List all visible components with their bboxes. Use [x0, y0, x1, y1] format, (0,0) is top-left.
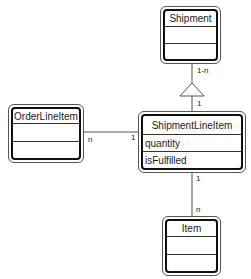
- class-name: OrderLineItem: [13, 109, 79, 124]
- operations-compartment: [13, 142, 79, 159]
- class-item[interactable]: Item: [162, 216, 221, 276]
- class-name: Shipment: [165, 11, 216, 27]
- class-orderlineitem[interactable]: OrderLineItem: [8, 104, 84, 163]
- attributes-compartment: [167, 237, 216, 255]
- multiplicity-shipment: 1-n: [197, 66, 209, 75]
- attributes-compartment: [165, 27, 216, 44]
- multiplicity-item: n: [196, 205, 200, 214]
- class-name: Item: [167, 221, 216, 237]
- class-shipmentlineitem[interactable]: ShipmentLineItem quantity isFulfilled: [138, 111, 246, 173]
- class-name: ShipmentLineItem: [143, 116, 241, 135]
- uml-diagram: Shipment OrderLineItem ShipmentLineItem …: [0, 0, 251, 279]
- multiplicity-orderlineitem: n: [88, 135, 92, 144]
- multiplicity-shipmentlineitem-top: 1: [197, 99, 201, 108]
- attribute-isfulfilled: isFulfilled: [143, 152, 241, 168]
- class-shipment[interactable]: Shipment: [160, 6, 221, 64]
- operations-compartment: [165, 44, 216, 60]
- attribute-quantity: quantity: [143, 135, 241, 152]
- attributes-compartment: [13, 124, 79, 142]
- multiplicity-shipmentlineitem-bottom: 1: [196, 174, 200, 183]
- aggregation-triangle-icon: [180, 83, 204, 96]
- multiplicity-shipmentlineitem-left: 1: [131, 133, 135, 142]
- operations-compartment: [167, 255, 216, 272]
